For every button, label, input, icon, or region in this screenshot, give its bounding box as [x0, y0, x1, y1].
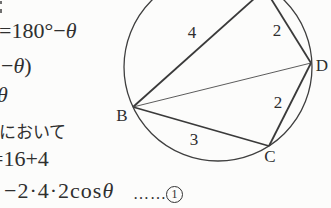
side-label-CB: 3	[190, 130, 199, 149]
side-CB	[133, 107, 269, 146]
vertex-label-B: B	[116, 106, 127, 125]
vertex-label-D: D	[316, 56, 328, 75]
side-label-AD: 2	[273, 21, 282, 40]
vertex-label-C: C	[264, 147, 275, 166]
diagonal-BD	[133, 63, 311, 107]
side-label-DC: 2	[274, 93, 283, 112]
circumscribed-circle	[124, 0, 312, 161]
side-label-AB: 4	[188, 23, 197, 42]
cyclic-quadrilateral-figure: 4 2 2 3 B C D	[0, 0, 331, 208]
textbook-page-clip: =180°−θ −θ) θ において =16+4 −2·4·2cosθ …… 1…	[0, 0, 331, 208]
